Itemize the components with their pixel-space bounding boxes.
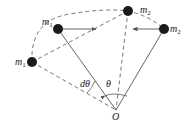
mass-m2-top bbox=[123, 6, 133, 16]
label-m2-right: m2 bbox=[170, 24, 181, 36]
label-m2-top: m2 bbox=[140, 5, 151, 17]
mass-m1-upper bbox=[53, 24, 63, 34]
diagram-canvas bbox=[0, 0, 190, 127]
dashed-line-m1-lower-to-o bbox=[32, 62, 116, 110]
mass-m1-lower bbox=[27, 57, 37, 67]
theta-arc bbox=[105, 94, 127, 96]
label-dtheta: dθ bbox=[80, 79, 90, 89]
rod-m1-to-o bbox=[58, 29, 116, 110]
label-theta: θ bbox=[106, 79, 111, 89]
mass-m2-right bbox=[159, 24, 169, 34]
label-origin: O bbox=[112, 112, 119, 122]
label-m1-upper: m1 bbox=[42, 17, 53, 29]
label-m1-lower: m1 bbox=[15, 57, 26, 69]
rod-m2-to-o bbox=[116, 29, 164, 110]
